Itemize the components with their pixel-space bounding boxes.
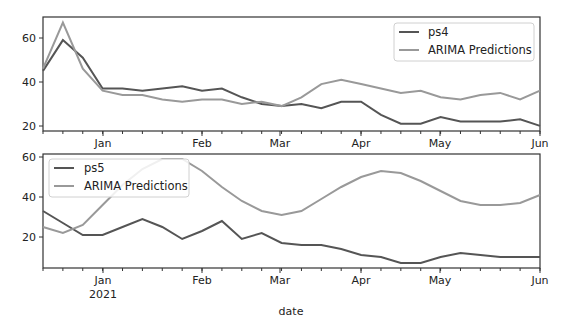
top-y-axis: 60 40 20 (22, 32, 43, 133)
top-legend: ps4 ARIMA Predictions (394, 23, 534, 61)
bottom-y-axis: 60 40 20 (22, 151, 43, 244)
bottom-xtick-feb: Feb (192, 274, 211, 287)
bottom-xtick-may: May (429, 274, 452, 287)
bottom-xtick-apr: Apr (351, 274, 371, 287)
top-panel: 60 40 20 Jan Feb Mar Apr May Jun ps4 ARI (22, 17, 549, 150)
x-axis-title: date (279, 305, 304, 318)
bottom-legend: ps5 ARIMA Predictions (49, 159, 189, 197)
top-xtick-jan: Jan (94, 137, 112, 150)
top-ytick-60: 60 (22, 32, 36, 45)
top-xtick-may: May (429, 137, 452, 150)
bottom-xtick-jun: Jun (530, 274, 548, 287)
bottom-ytick-40: 40 (22, 191, 36, 204)
top-ytick-20: 20 (22, 120, 36, 133)
bottom-xtick-mar: Mar (270, 274, 291, 287)
bottom-xtick-year: 2021 (89, 288, 117, 301)
bottom-ytick-20: 20 (22, 231, 36, 244)
chart-figure: 60 40 20 Jan Feb Mar Apr May Jun ps4 ARI (0, 0, 566, 332)
bottom-x-tick-labels: Jan 2021 Feb Mar Apr May Jun (89, 268, 549, 301)
top-ytick-40: 40 (22, 76, 36, 89)
top-xtick-feb: Feb (192, 137, 211, 150)
top-xtick-apr: Apr (351, 137, 371, 150)
top-legend-ps4: ps4 (428, 25, 449, 39)
bottom-legend-ps5: ps5 (84, 161, 105, 175)
bottom-xtick-jan: Jan (94, 274, 112, 287)
top-xtick-mar: Mar (270, 137, 291, 150)
bottom-panel: 60 40 20 Jan 2021 Feb Mar Apr May Jun da… (22, 151, 549, 318)
bottom-ytick-60: 60 (22, 151, 36, 164)
bottom-legend-arima: ARIMA Predictions (84, 179, 188, 193)
top-legend-arima: ARIMA Predictions (428, 43, 532, 57)
top-xtick-jun: Jun (530, 137, 548, 150)
